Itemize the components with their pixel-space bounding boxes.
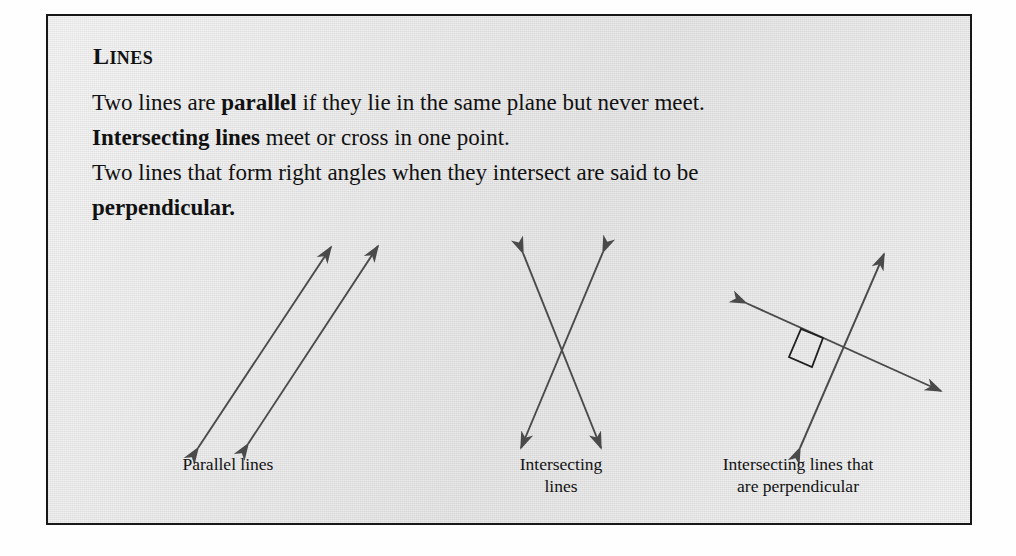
body-text: Two lines are parallel if they lie in th… — [92, 85, 892, 225]
page-sheet: LINES Two lines are parallel if they lie… — [0, 0, 1016, 556]
lines-callout-box: LINES Two lines are parallel if they lie… — [46, 14, 972, 525]
caption-perpendicular-lines: Intersecting lines that are perpendicula… — [653, 453, 943, 497]
body-line-1-part-c: if they lie in the same plane but never … — [297, 90, 705, 115]
intersecting-line-2 — [521, 252, 603, 448]
body-line-2: Intersecting lines meet or cross in one … — [92, 120, 892, 155]
body-line-2-part-b: meet or cross in one point. — [260, 125, 510, 150]
figure-parallel-lines — [168, 216, 408, 441]
caption-intersecting-lines: Intersecting lines — [476, 453, 646, 497]
intersecting-lines-diagram — [496, 216, 631, 466]
heading-initial-cap: L — [93, 43, 109, 69]
term-parallel: parallel — [221, 90, 296, 115]
body-line-1-part-a: Two lines are — [92, 90, 221, 115]
figure-intersecting-lines — [496, 216, 626, 441]
perpendicular-lines-diagram — [688, 216, 953, 466]
body-line-3: Two lines that form right angles when th… — [92, 155, 892, 190]
page-title: LINES — [93, 44, 153, 68]
heading-smallcaps: INES — [109, 48, 153, 68]
term-intersecting-lines: Intersecting lines — [92, 125, 260, 150]
figure-perpendicular-lines — [688, 216, 903, 441]
parallel-lines-diagram — [168, 216, 408, 466]
caption-parallel-lines: Parallel lines — [108, 453, 348, 475]
body-line-3-part-a: Two lines that form right angles when th… — [92, 160, 698, 185]
body-line-1: Two lines are parallel if they lie in th… — [92, 85, 892, 120]
perpendicular-line-verticalish — [800, 254, 884, 448]
callout-content: LINES Two lines are parallel if they lie… — [48, 16, 970, 523]
